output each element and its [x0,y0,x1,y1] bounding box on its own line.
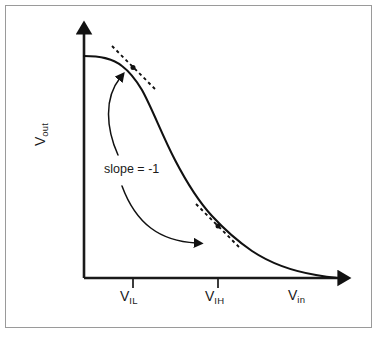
y-axis-label: Vout [33,123,47,146]
y-axis-label-text: V [32,137,48,146]
y-axis-label-subscript: out [39,123,50,137]
x-axis-label-text: V [288,287,297,303]
tangency-point-vil [131,65,136,70]
tangency-point-vih [216,224,221,229]
tick-label-vih-text: V [205,288,214,304]
vtc-figure: Vout Vin VIL VIH slope = -1 [0,0,383,339]
tick-label-vih: VIH [205,289,224,303]
tick-label-vih-subscript: IH [214,295,224,306]
tick-label-vil-subscript: IL [129,295,137,306]
slope-annotation-label: slope = -1 [104,162,159,176]
leader-arrow-lower [122,186,196,243]
tick-label-vil-text: V [120,288,129,304]
x-axis-label: Vin [288,288,305,302]
tick-label-vil: VIL [120,289,138,303]
vtc-plot-svg [0,0,383,339]
leader-arrow-upper [109,78,121,155]
x-axis-label-subscript: in [297,294,305,305]
